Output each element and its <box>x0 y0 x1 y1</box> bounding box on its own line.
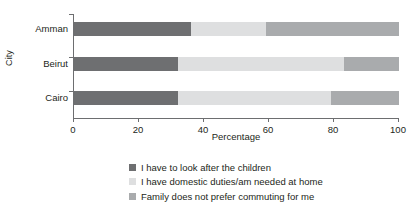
legend-label: Family does not prefer commuting for me <box>141 191 314 202</box>
legend-swatch-icon <box>129 178 136 185</box>
bar-segment <box>74 22 191 36</box>
x-axis-tick <box>73 118 74 122</box>
legend-label: I have to look after the children <box>141 162 271 173</box>
legend-label: I have domestic duties/am needed at home <box>141 176 323 187</box>
x-axis-tick <box>268 118 269 122</box>
category-label-group: Amman Beirut Cairo <box>0 0 68 218</box>
category-label-beirut: Beirut <box>8 59 68 69</box>
x-axis-title: Percentage <box>73 131 399 142</box>
bar-segment <box>266 22 399 36</box>
x-axis-tick <box>333 118 334 122</box>
bar-segment <box>331 91 399 105</box>
x-axis-line <box>73 118 399 119</box>
y-axis-tick <box>69 14 73 15</box>
stacked-bar-chart: City Amman Beirut Cairo 0 20 40 60 80 10… <box>0 0 413 218</box>
category-label-amman: Amman <box>8 24 68 34</box>
legend-swatch-icon <box>129 193 136 200</box>
category-label-cairo: Cairo <box>8 93 68 103</box>
legend-item-children: I have to look after the children <box>129 160 389 174</box>
y-axis-tick <box>69 91 73 92</box>
legend-item-commuting: Family does not prefer commuting for me <box>129 189 389 203</box>
x-axis-tick <box>203 118 204 122</box>
bar-segment <box>344 57 399 71</box>
legend-swatch-icon <box>129 164 136 171</box>
bar-segment <box>191 22 266 36</box>
plot-area: 0 20 40 60 80 100 <box>73 14 398 118</box>
bar-segment <box>178 57 344 71</box>
x-axis-tick <box>138 118 139 122</box>
bar-segment <box>74 57 178 71</box>
bar-segment <box>178 91 331 105</box>
y-axis-tick <box>69 57 73 58</box>
legend-item-domestic-duties: I have domestic duties/am needed at home <box>129 175 389 189</box>
bar-segment <box>74 91 178 105</box>
x-axis-tick <box>398 118 399 122</box>
legend: I have to look after the children I have… <box>129 160 389 204</box>
